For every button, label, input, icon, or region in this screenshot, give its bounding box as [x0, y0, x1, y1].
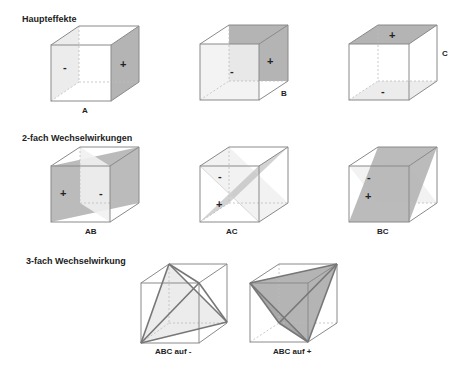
cube-BC: - + [349, 147, 437, 222]
cube-B: - + [200, 25, 288, 100]
minus-sign: - [381, 85, 385, 97]
cube-AB: + - [51, 147, 139, 222]
plus-sign: + [389, 29, 395, 41]
cube-label-C: C [442, 49, 448, 58]
plus-sign: + [120, 58, 126, 70]
cube-label-ABC-minus: ABC auf - [155, 347, 191, 356]
cube-ABC-minus [141, 264, 227, 343]
cube-label-AB: AB [85, 227, 97, 236]
cube-label-BC: BC [377, 227, 389, 236]
minus-sign: - [367, 171, 371, 183]
minus-sign: - [218, 170, 222, 182]
plus-plane [349, 147, 437, 222]
cube-label-A: A [82, 106, 88, 115]
cube-ABC-plus [250, 264, 337, 342]
plus-sign: + [60, 187, 66, 199]
cube-AC: - + [200, 147, 288, 222]
factorial-cube-diagram: - + - + - + + - [0, 0, 456, 369]
cube-label-AC: AC [226, 227, 238, 236]
minus-sign: - [230, 65, 234, 77]
plus-sign: + [216, 198, 222, 210]
plus-sign: + [365, 190, 371, 202]
cube-label-ABC-plus: ABC auf + [273, 347, 311, 356]
cube-C: - + [349, 25, 437, 100]
plus-sign: + [267, 55, 273, 67]
minus-sign: - [99, 187, 103, 199]
cube-label-B: B [281, 89, 287, 98]
cube-A: - + [51, 26, 139, 101]
minus-sign: - [63, 61, 67, 73]
